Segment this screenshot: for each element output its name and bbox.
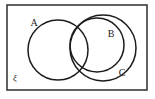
venn-diagram-canvas: A B C ξ (0, 0, 155, 99)
set-label-c: C (119, 67, 126, 78)
universal-set-label: ξ (13, 73, 17, 83)
set-circle-b (70, 18, 124, 72)
set-label-a: A (30, 17, 38, 28)
set-label-b: B (108, 28, 115, 39)
venn-diagram-figure: A B C ξ (0, 0, 155, 99)
